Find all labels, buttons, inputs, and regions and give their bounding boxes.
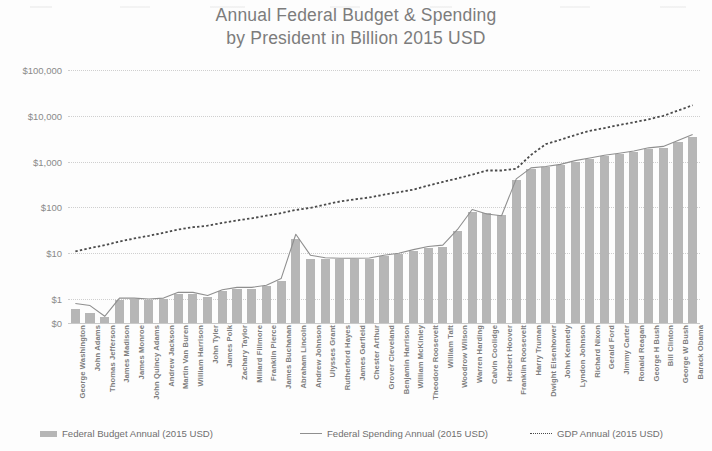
- chart-container: Annual Federal Budget & Spending by Pres…: [0, 0, 712, 451]
- y-axis-tick-label: $10: [46, 248, 62, 259]
- x-axis-tick-label: John Quincy Adams: [152, 325, 161, 400]
- x-axis-tick-label: Richard Nixon: [593, 325, 602, 378]
- chart-title-line-1: Annual Federal Budget & Spending: [0, 4, 712, 27]
- x-axis-tick-label: Rutherford Hayes: [343, 325, 352, 390]
- x-axis-tick-label: Andrew Johnson: [314, 325, 323, 388]
- legend-label-budget: Federal Budget Annual (2015 USD): [62, 428, 213, 439]
- x-axis-tick-label: Jimmy Carter: [622, 325, 631, 375]
- legend-label-gdp: GDP Annual (2015 USD): [557, 428, 663, 439]
- x-axis-tick-label: George W Bush: [681, 325, 690, 383]
- x-axis-tick-label: William Taft: [446, 325, 455, 368]
- x-axis-tick-label: Bill Clinton: [666, 325, 675, 366]
- x-axis-tick-label: William McKinley: [416, 325, 425, 389]
- x-axis-tick-label: Woodrow Wilson: [460, 325, 469, 388]
- x-axis-tick-label: Calvin Coolidge: [490, 325, 499, 384]
- y-axis-tick-label: $1: [51, 294, 62, 305]
- x-axis-tick-label: Franklin Pierce: [269, 325, 278, 381]
- chart-legend: Federal Budget Annual (2015 USD) Federal…: [0, 428, 712, 448]
- x-axis-tick-label: Herbert Hoover: [505, 325, 514, 382]
- legend-item-budget: Federal Budget Annual (2015 USD): [40, 428, 213, 439]
- x-axis-tick-label: Warren Harding: [475, 325, 484, 383]
- legend-bar-swatch-icon: [40, 431, 57, 437]
- plot-area: [68, 70, 700, 323]
- x-axis-tick-label: John Tyler: [211, 325, 220, 364]
- legend-item-spending: Federal Spending Annual (2015 USD): [300, 428, 488, 439]
- x-axis-tick-label: Abraham Lincoln: [299, 325, 308, 389]
- x-axis-tick-label: Martin Van Buren: [181, 325, 190, 389]
- x-axis-tick-label: Theodore Roosevelt: [431, 325, 440, 400]
- x-axis-tick-label: Grover Cleveland: [387, 325, 396, 390]
- x-axis-tick-label: Zachary Taylor: [240, 325, 249, 380]
- y-axis-tick-label: $0: [51, 318, 62, 329]
- line-series: [68, 70, 700, 323]
- legend-dotted-swatch-icon: [530, 433, 552, 434]
- x-axis-tick-label: Gerald Ford: [607, 325, 616, 369]
- x-axis-tick-label: James Polk: [225, 325, 234, 368]
- x-axis-tick-label: John Kennedy: [563, 325, 572, 379]
- x-axis-tick-label: Benjamin Harrison: [402, 325, 411, 394]
- x-axis-tick-label: James Monroe: [137, 325, 146, 379]
- x-axis-tick-label: Millard Fillmore: [255, 325, 264, 383]
- gridline: [68, 323, 700, 324]
- x-axis-labels: George WashingtonJohn AdamsThomas Jeffer…: [68, 325, 700, 425]
- y-axis-tick-label: $100: [41, 202, 62, 213]
- x-axis-tick-label: John Adams: [93, 325, 102, 371]
- y-axis-tick-label: $100,000: [22, 65, 62, 76]
- series-line: [75, 105, 692, 251]
- legend-line-swatch-icon: [300, 433, 322, 434]
- chart-title-line-2: by President in Billion 2015 USD: [0, 27, 712, 50]
- x-axis-tick-label: Barack Obama: [696, 325, 705, 379]
- x-axis-tick-label: James Madison: [122, 325, 131, 383]
- series-line: [75, 135, 692, 317]
- y-axis-tick-label: $1,000: [33, 156, 62, 167]
- chart-title: Annual Federal Budget & Spending by Pres…: [0, 4, 712, 50]
- y-axis-labels: $100,000$10,000$1,000$100$10$1$0: [0, 70, 62, 326]
- x-axis-tick-label: Ronald Reagan: [637, 325, 646, 382]
- x-axis-tick-label: William Harrison: [196, 325, 205, 386]
- x-axis-tick-label: Andrew Jackson: [167, 325, 176, 387]
- x-axis-tick-label: Harry Truman: [534, 325, 543, 376]
- x-axis-tick-label: James Garfield: [358, 325, 367, 381]
- x-axis-tick-label: George Washington: [78, 325, 87, 399]
- legend-item-gdp: GDP Annual (2015 USD): [530, 428, 663, 439]
- x-axis-tick-label: Lyndon Johnson: [578, 325, 587, 387]
- x-axis-tick-label: James Buchanan: [284, 325, 293, 389]
- x-axis-tick-label: Dwight Eisenhower: [549, 325, 558, 397]
- x-axis-tick-label: Ulysses Grant: [328, 325, 337, 377]
- legend-label-spending: Federal Spending Annual (2015 USD): [327, 428, 488, 439]
- y-axis-tick-label: $10,000: [28, 110, 62, 121]
- x-axis-tick-label: Franklin Roosevelt: [519, 325, 528, 395]
- x-axis-tick-label: Chester Arthur: [372, 325, 381, 380]
- x-axis-tick-label: Thomas Jefferson: [108, 325, 117, 392]
- x-axis-tick-label: George H Bush: [652, 325, 661, 382]
